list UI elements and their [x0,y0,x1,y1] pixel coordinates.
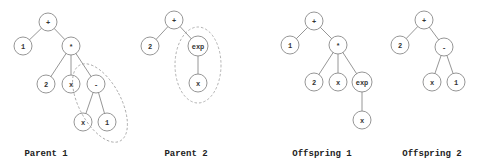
node-label: - [442,44,446,52]
tree-node: * [62,37,80,55]
tree-parent-1: +1*2x-x1Parent 1 [14,13,139,159]
tree-node: 1 [14,37,32,55]
tree-node: 2 [305,73,323,91]
tree-caption: Parent 2 [164,149,207,159]
tree-node: x [189,74,207,92]
tree-node: x [329,73,347,91]
tree-caption: Offspring 1 [292,149,352,159]
tree-node: 1 [98,113,116,131]
node-label: 1 [454,79,458,87]
node-label: 1 [105,119,109,127]
tree-node: - [87,75,105,93]
tree-edges [23,22,107,122]
node-label: + [46,19,50,27]
tree-node: x [62,75,80,93]
node-label: 2 [398,42,402,50]
tree-node: - [435,38,453,56]
tree-node: 2 [391,36,409,54]
node-label: + [172,17,176,25]
tree-node: 2 [37,75,55,93]
tree-offspring-2: +2-x1Offspring 2 [391,11,465,159]
tree-offspring-1: +1*2xexpxOffspring 1 [281,12,372,159]
node-label: + [422,17,426,25]
node-label: * [336,42,340,50]
tree-node: * [329,36,347,54]
tree-node: 1 [281,36,299,54]
node-label: + [312,18,316,26]
crossover-diagram: +1*2x-x1Parent 1+2expxParent 2+1*2xexpxO… [0,0,482,165]
tree-node: 2 [141,37,159,55]
tree-node: exp [188,36,208,56]
tree-edges [290,21,362,120]
node-label: * [69,43,73,51]
tree-node: 1 [447,73,465,91]
node-label: 2 [44,81,48,89]
node-label: exp [192,43,205,51]
tree-node: x [423,73,441,91]
tree-caption: Offspring 2 [402,149,461,159]
node-label: 2 [148,43,152,51]
node-label: exp [356,79,369,87]
node-label: 2 [312,79,316,87]
tree-node: + [165,11,183,29]
tree-node: + [415,11,433,29]
tree-node: + [39,13,57,31]
node-label: 1 [21,43,25,51]
tree-parent-2: +2expxParent 2 [141,11,221,159]
tree-node: + [305,12,323,30]
node-label: 1 [288,42,292,50]
node-label: - [94,81,98,89]
tree-node: x [353,111,371,129]
tree-node: exp [352,72,372,92]
tree-caption: Parent 1 [24,149,68,159]
crossover-subtree-selection [61,55,138,151]
